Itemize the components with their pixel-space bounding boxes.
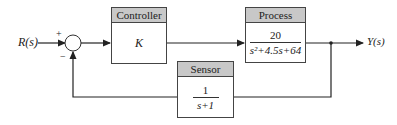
sensor-denominator: s+1	[197, 99, 214, 111]
sensor-numerator: 1	[203, 84, 209, 96]
controller-title: Controller	[112, 8, 166, 23]
plus-sign: +	[56, 28, 62, 39]
process-transfer: 20 s²+4.5s+64	[250, 29, 301, 56]
process-denominator: s²+4.5s+64	[250, 44, 301, 56]
process-title: Process	[246, 8, 305, 23]
process-numerator: 20	[270, 29, 281, 41]
sensor-title: Sensor	[178, 62, 233, 77]
controller-block: Controller K	[111, 7, 167, 64]
process-block: Process 20 s²+4.5s+64	[245, 7, 306, 63]
minus-sign: −	[60, 51, 66, 62]
input-label: R(s)	[18, 35, 38, 50]
sensor-transfer: 1 s+1	[193, 84, 219, 111]
sensor-block: Sensor 1 s+1	[177, 61, 234, 118]
summing-junction	[65, 35, 81, 51]
fraction-bar	[193, 97, 219, 98]
output-label: Y(s)	[367, 35, 385, 47]
controller-transfer: K	[112, 23, 166, 63]
fraction-bar	[250, 42, 301, 43]
